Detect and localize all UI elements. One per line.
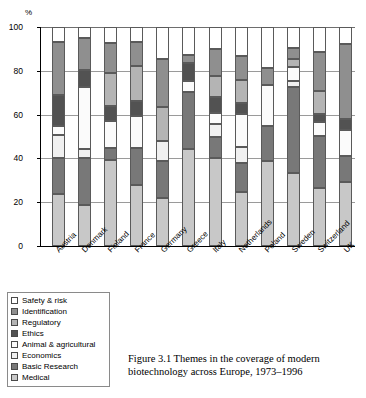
bar-segment[interactable] bbox=[130, 27, 143, 42]
bar-segment[interactable] bbox=[235, 114, 248, 146]
bar-group[interactable] bbox=[156, 27, 169, 246]
stacked-bar[interactable] bbox=[339, 27, 352, 246]
bar-segment[interactable] bbox=[130, 185, 143, 246]
legend-item[interactable]: Identification bbox=[11, 306, 106, 317]
bar-group[interactable] bbox=[339, 27, 352, 246]
bar-segment[interactable] bbox=[235, 103, 248, 114]
bar-group[interactable] bbox=[78, 27, 91, 246]
bar-group[interactable] bbox=[104, 27, 117, 246]
bar-segment[interactable] bbox=[209, 113, 222, 124]
legend-item[interactable]: Medical bbox=[11, 372, 106, 383]
bar-segment[interactable] bbox=[78, 27, 91, 38]
stacked-bar[interactable] bbox=[130, 27, 143, 246]
bar-segment[interactable] bbox=[235, 27, 248, 56]
bar-segment[interactable] bbox=[156, 161, 169, 199]
bar-segment[interactable] bbox=[287, 59, 300, 67]
bar-segment[interactable] bbox=[104, 148, 117, 160]
bar-segment[interactable] bbox=[287, 48, 300, 59]
bar-segment[interactable] bbox=[78, 149, 91, 158]
bar-segment[interactable] bbox=[261, 85, 274, 126]
bar-segment[interactable] bbox=[52, 158, 65, 194]
stacked-bar[interactable] bbox=[104, 27, 117, 246]
bar-segment[interactable] bbox=[287, 27, 300, 48]
bar-segment[interactable] bbox=[339, 44, 352, 119]
stacked-bar[interactable] bbox=[52, 27, 65, 246]
stacked-bar[interactable] bbox=[313, 27, 326, 246]
bar-segment[interactable] bbox=[52, 126, 65, 135]
bar-segment[interactable] bbox=[313, 52, 326, 91]
bar-segment[interactable] bbox=[182, 92, 195, 149]
bar-segment[interactable] bbox=[130, 101, 143, 116]
bar-segment[interactable] bbox=[209, 158, 222, 246]
bar-segment[interactable] bbox=[209, 97, 222, 113]
bar-segment[interactable] bbox=[209, 27, 222, 49]
bar-segment[interactable] bbox=[156, 59, 169, 106]
bar-segment[interactable] bbox=[104, 27, 117, 43]
stacked-bar[interactable] bbox=[209, 27, 222, 246]
legend-item[interactable]: Ethics bbox=[11, 328, 106, 339]
bar-segment[interactable] bbox=[287, 173, 300, 246]
bar-segment[interactable] bbox=[104, 43, 117, 73]
bar-segment[interactable] bbox=[313, 27, 326, 52]
bar-segment[interactable] bbox=[156, 141, 169, 160]
bar-segment[interactable] bbox=[156, 27, 169, 59]
bar-segment[interactable] bbox=[182, 27, 195, 55]
bar-group[interactable] bbox=[235, 27, 248, 246]
bar-segment[interactable] bbox=[209, 49, 222, 76]
bar-segment[interactable] bbox=[104, 121, 117, 149]
stacked-bar[interactable] bbox=[182, 27, 195, 246]
bar-segment[interactable] bbox=[235, 80, 248, 103]
bar-segment[interactable] bbox=[52, 95, 65, 125]
bar-segment[interactable] bbox=[209, 124, 222, 136]
stacked-bar[interactable] bbox=[78, 27, 91, 246]
legend-item[interactable]: Basic Research bbox=[11, 361, 106, 372]
bar-segment[interactable] bbox=[130, 66, 143, 100]
bar-segment[interactable] bbox=[130, 42, 143, 66]
bar-segment[interactable] bbox=[209, 137, 222, 158]
bar-segment[interactable] bbox=[182, 81, 195, 92]
bar-group[interactable] bbox=[52, 27, 65, 246]
bar-segment[interactable] bbox=[209, 76, 222, 97]
legend-item[interactable]: Safety & risk bbox=[11, 295, 106, 306]
bar-segment[interactable] bbox=[130, 148, 143, 185]
bar-segment[interactable] bbox=[339, 182, 352, 246]
stacked-bar[interactable] bbox=[156, 27, 169, 246]
bar-segment[interactable] bbox=[182, 55, 195, 63]
bar-segment[interactable] bbox=[313, 122, 326, 136]
bar-segment[interactable] bbox=[182, 63, 195, 81]
bar-segment[interactable] bbox=[339, 119, 352, 130]
legend-item[interactable]: Regulatory bbox=[11, 317, 106, 328]
bar-segment[interactable] bbox=[235, 56, 248, 79]
bar-segment[interactable] bbox=[78, 158, 91, 205]
stacked-bar[interactable] bbox=[261, 27, 274, 246]
bar-segment[interactable] bbox=[313, 114, 326, 122]
bar-group[interactable] bbox=[130, 27, 143, 246]
bar-segment[interactable] bbox=[52, 42, 65, 95]
bar-segment[interactable] bbox=[261, 27, 274, 68]
bar-segment[interactable] bbox=[78, 70, 91, 87]
bar-segment[interactable] bbox=[339, 130, 352, 156]
bar-segment[interactable] bbox=[313, 188, 326, 246]
bar-segment[interactable] bbox=[235, 147, 248, 163]
bar-group[interactable] bbox=[209, 27, 222, 246]
bar-segment[interactable] bbox=[130, 116, 143, 148]
bar-group[interactable] bbox=[261, 27, 274, 246]
bar-segment[interactable] bbox=[261, 126, 274, 161]
bar-segment[interactable] bbox=[78, 87, 91, 149]
bar-segment[interactable] bbox=[104, 73, 117, 106]
bar-segment[interactable] bbox=[104, 106, 117, 120]
legend-item[interactable]: Economics bbox=[11, 350, 106, 361]
bar-segment[interactable] bbox=[287, 87, 300, 173]
bar-segment[interactable] bbox=[287, 67, 300, 80]
bar-segment[interactable] bbox=[287, 81, 300, 88]
bar-segment[interactable] bbox=[235, 163, 248, 193]
bar-segment[interactable] bbox=[339, 156, 352, 182]
bar-group[interactable] bbox=[313, 27, 326, 246]
bar-segment[interactable] bbox=[313, 136, 326, 188]
stacked-bar[interactable] bbox=[287, 27, 300, 246]
bar-segment[interactable] bbox=[261, 68, 274, 86]
bar-segment[interactable] bbox=[339, 27, 352, 44]
legend-item[interactable]: Animal & agricultural bbox=[11, 339, 106, 350]
bar-segment[interactable] bbox=[313, 91, 326, 114]
bar-group[interactable] bbox=[287, 27, 300, 246]
